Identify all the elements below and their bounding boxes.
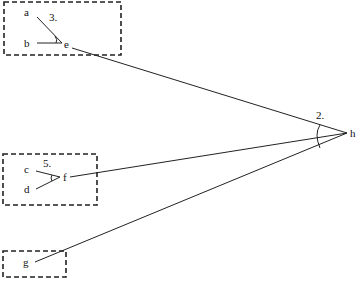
- segment-g-h: [35, 133, 347, 262]
- angle-label-5: 5.: [43, 157, 52, 169]
- diagram-canvas: a b e c d f g h 3. 5. 2.: [0, 0, 360, 281]
- segment-d-f: [36, 177, 60, 189]
- group-box-abe: [4, 2, 121, 55]
- segment-c-f: [36, 171, 60, 177]
- label-a: a: [24, 6, 29, 18]
- label-c: c: [24, 163, 29, 175]
- group-box-g: [3, 251, 66, 277]
- label-b: b: [24, 37, 30, 49]
- label-h: h: [350, 127, 356, 139]
- segment-e-h: [72, 48, 347, 133]
- label-g: g: [23, 256, 29, 268]
- angle-label-3: 3.: [49, 11, 58, 23]
- label-e: e: [64, 38, 69, 50]
- angle-label-2: 2.: [316, 109, 325, 121]
- label-d: d: [24, 183, 30, 195]
- label-f: f: [63, 171, 67, 183]
- angle-5-arc: [51, 175, 52, 181]
- segment-f-h: [70, 133, 347, 177]
